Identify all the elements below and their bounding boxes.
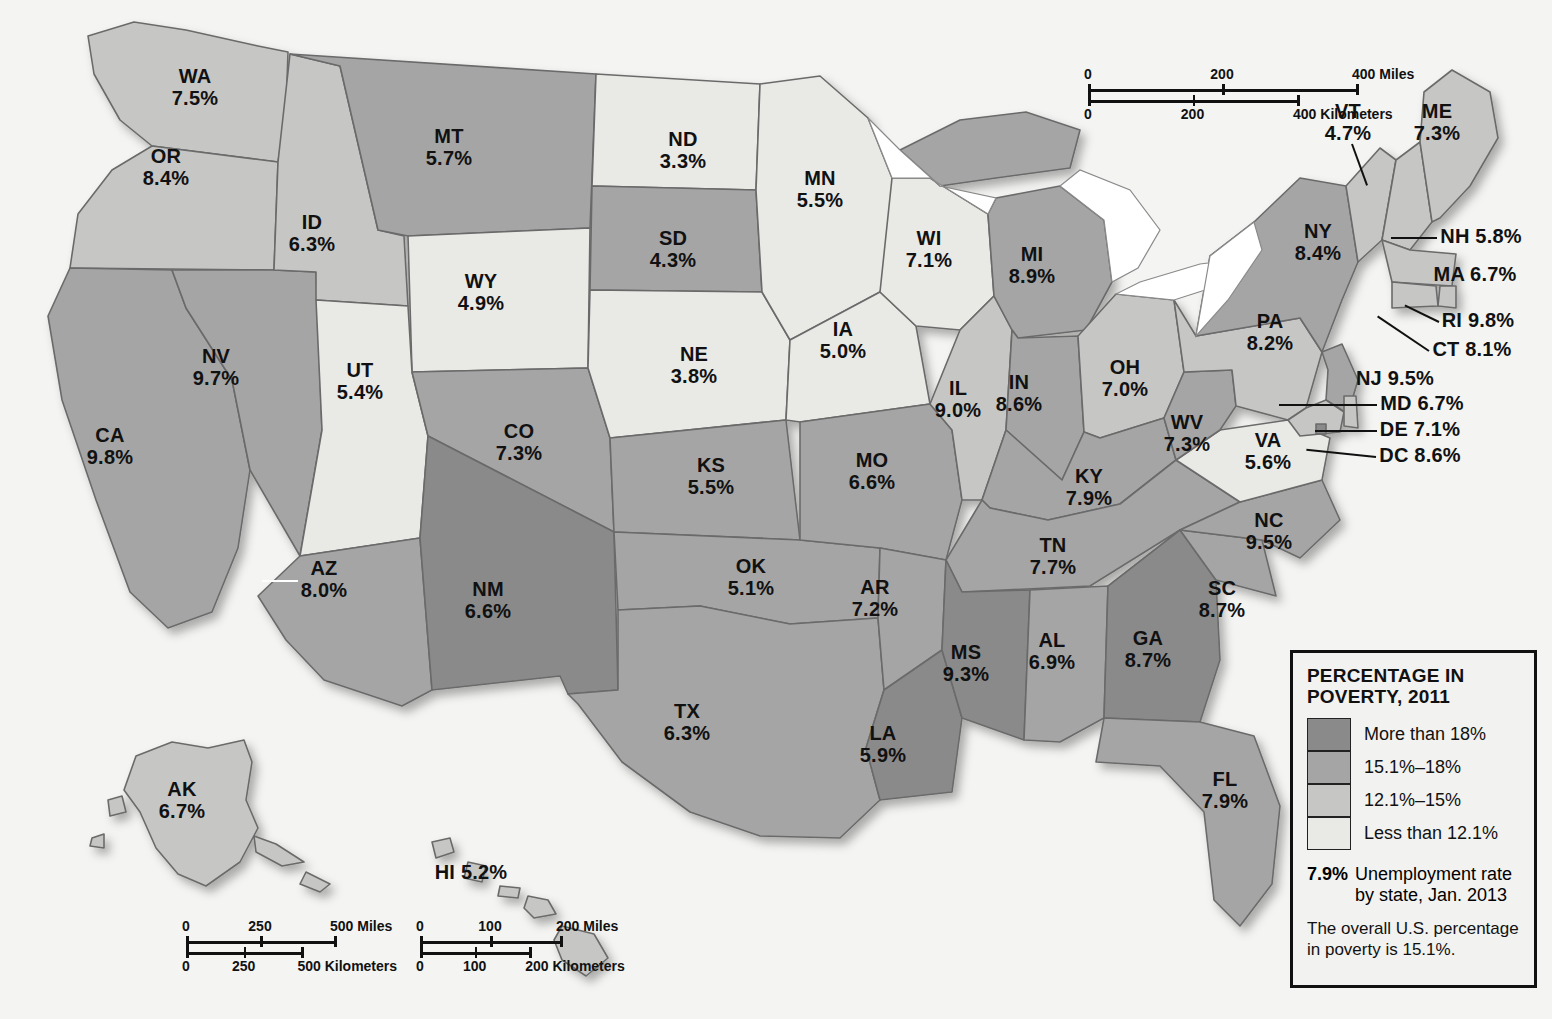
state-fl[interactable] xyxy=(1096,718,1280,926)
states-group xyxy=(48,22,1498,976)
map-legend: PERCENTAGE IN POVERTY, 2011 More than 18… xyxy=(1290,650,1537,988)
legend-unemployment-rate: 7.9% xyxy=(1307,864,1348,906)
scale-tick-label: 500 Miles xyxy=(330,918,392,934)
scale-tick-label: 250 xyxy=(232,958,255,974)
legend-swatch xyxy=(1307,718,1351,751)
scale-tick-label: 200 Kilometers xyxy=(525,958,625,974)
scale-tick-label: 0 xyxy=(182,958,190,974)
scale-labels: 0200400 Miles xyxy=(1088,66,1356,84)
scale-labels: 0250500 Kilometers xyxy=(186,958,361,976)
state-az[interactable] xyxy=(258,538,432,706)
legend-row: 15.1%–18% xyxy=(1307,751,1522,784)
legend-label: Less than 12.1% xyxy=(1351,823,1498,844)
leader-line-az xyxy=(262,580,298,582)
legend-class-list: More than 18%15.1%–18%12.1%–15%Less than… xyxy=(1307,718,1522,850)
scale-labels: 0250500 Miles xyxy=(186,918,361,936)
state-hi[interactable] xyxy=(432,838,454,858)
scale-tick-label: 200 xyxy=(1210,66,1233,82)
scale-tick-label: 500 Kilometers xyxy=(297,958,397,974)
legend-unemployment-caption: Unemployment rate by state, Jan. 2013 xyxy=(1355,864,1512,906)
state-de[interactable] xyxy=(1344,396,1358,428)
legend-label: 15.1%–18% xyxy=(1351,757,1461,778)
state-ct[interactable] xyxy=(1392,282,1438,308)
state-hi[interactable] xyxy=(464,862,486,882)
legend-label: 12.1%–15% xyxy=(1351,790,1461,811)
legend-swatch xyxy=(1307,784,1351,817)
state-wy[interactable] xyxy=(408,228,590,372)
legend-unemployment-caption-line1: Unemployment rate xyxy=(1355,864,1512,884)
legend-row: Less than 12.1% xyxy=(1307,817,1522,850)
scale-tick-label: 200 xyxy=(1181,106,1204,122)
scale-bar-hawaii: 0100200 Miles0100200 Kilometers xyxy=(420,918,580,976)
poverty-unemployment-map: WA7.5%OR8.4%CA9.8%NV9.7%ID6.3%MT5.7%WY4.… xyxy=(0,0,1552,1019)
state-dc[interactable] xyxy=(1316,424,1326,434)
scale-tick-label: 100 xyxy=(463,958,486,974)
scale-tick-label: 0 xyxy=(182,918,190,934)
scale-tick-label: 0 xyxy=(416,958,424,974)
legend-row: More than 18% xyxy=(1307,718,1522,751)
scale-bar-alaska: 0250500 Miles0250500 Kilometers xyxy=(186,918,361,976)
state-ma[interactable] xyxy=(1382,240,1456,286)
scale-tick-label: 0 xyxy=(1084,106,1092,122)
state-mo[interactable] xyxy=(800,404,962,560)
scale-tick-label: 100 xyxy=(478,918,501,934)
scale-tick-label: 0 xyxy=(1084,66,1092,82)
state-me[interactable] xyxy=(1420,70,1498,222)
legend-note: The overall U.S. percentage in poverty i… xyxy=(1307,919,1522,960)
legend-unemployment-key: 7.9% Unemployment rate by state, Jan. 20… xyxy=(1307,864,1522,906)
legend-label: More than 18% xyxy=(1351,724,1486,745)
leader-line-nh xyxy=(1391,237,1437,239)
legend-title-line1: PERCENTAGE IN xyxy=(1307,665,1464,686)
state-ne[interactable] xyxy=(588,290,790,438)
legend-title: PERCENTAGE IN POVERTY, 2011 xyxy=(1307,665,1522,708)
scale-labels: 0100200 Miles xyxy=(420,918,580,936)
state-sd[interactable] xyxy=(590,186,762,292)
state-ri[interactable] xyxy=(1438,286,1456,308)
scale-rule xyxy=(186,936,361,947)
state-wa[interactable] xyxy=(88,22,288,162)
state-or[interactable] xyxy=(70,146,278,270)
scale-tick-label: 250 xyxy=(248,918,271,934)
state-al[interactable] xyxy=(1024,586,1108,742)
state-nd[interactable] xyxy=(592,74,760,190)
scale-bar-main: 0200400 Miles0200400 Kilometers xyxy=(1088,66,1356,124)
state-ks[interactable] xyxy=(610,420,800,540)
leader-line-de xyxy=(1315,430,1377,432)
scale-tick-label: 0 xyxy=(416,918,424,934)
legend-row: 12.1%–15% xyxy=(1307,784,1522,817)
scale-rule xyxy=(186,947,361,958)
legend-unemployment-caption-line2: by state, Jan. 2013 xyxy=(1355,885,1507,905)
legend-swatch xyxy=(1307,751,1351,784)
legend-swatch xyxy=(1307,817,1351,850)
scale-tick-label: 400 Miles xyxy=(1352,66,1414,82)
legend-title-line2: POVERTY, 2011 xyxy=(1307,686,1450,707)
scale-rule xyxy=(420,947,580,958)
scale-rule xyxy=(1088,95,1356,106)
scale-rule xyxy=(420,936,580,947)
state-hi[interactable] xyxy=(524,896,556,918)
scale-rule xyxy=(1088,84,1356,95)
scale-labels: 0100200 Kilometers xyxy=(420,958,580,976)
state-ak[interactable] xyxy=(90,740,330,892)
leader-line-md xyxy=(1279,404,1377,406)
scale-tick-label: 200 Miles xyxy=(556,918,618,934)
scale-labels: 0200400 Kilometers xyxy=(1088,106,1356,124)
state-hi[interactable] xyxy=(498,886,520,898)
scale-tick-label: 400 Kilometers xyxy=(1293,106,1393,122)
